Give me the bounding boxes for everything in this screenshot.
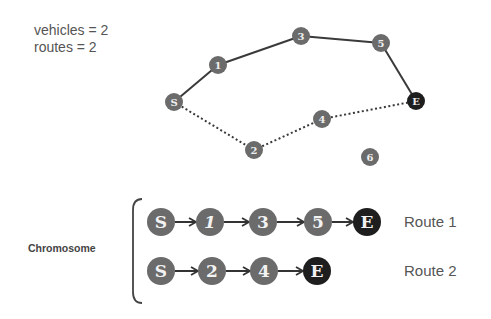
svg-text:3: 3 [257, 212, 269, 232]
gene-E: E [303, 257, 331, 285]
gene-4: 4 [250, 257, 278, 285]
chromosome-label: Chromosome [28, 242, 96, 254]
svg-text:S: S [155, 212, 167, 232]
graph-edges [174, 36, 416, 150]
svg-text:S: S [155, 261, 167, 281]
route-1-edge [301, 36, 381, 43]
svg-text:6: 6 [367, 152, 374, 163]
graph-node-1: 1 [209, 56, 227, 74]
gene-S: S [147, 257, 175, 285]
route-1-edge [381, 43, 416, 101]
svg-text:2: 2 [206, 261, 218, 281]
gene-2: 2 [198, 257, 226, 285]
route-2-edge [322, 101, 416, 119]
graph-node-2: 2 [245, 141, 263, 159]
gene-3: 3 [249, 208, 277, 236]
svg-text:1: 1 [204, 212, 216, 232]
graph-node-4: 4 [313, 110, 331, 128]
svg-text:E: E [361, 212, 374, 232]
graph-nodes: S135E426 [165, 27, 425, 166]
svg-text:5: 5 [312, 212, 324, 232]
graph-node-S: S [165, 93, 183, 111]
route-1-label: Route 1 [404, 213, 457, 230]
gene-E: E [353, 208, 381, 236]
svg-text:3: 3 [298, 31, 305, 42]
svg-text:4: 4 [319, 114, 326, 125]
svg-text:5: 5 [378, 38, 385, 49]
svg-text:1: 1 [215, 60, 222, 71]
route-1-edge [218, 36, 301, 65]
gene-S: S [147, 208, 175, 236]
graph-node-5: 5 [372, 34, 390, 52]
graph-node-6: 6 [361, 148, 379, 166]
svg-text:E: E [412, 96, 420, 107]
svg-text:2: 2 [251, 145, 258, 156]
graph-node-3: 3 [292, 27, 310, 45]
svg-text:S: S [170, 97, 177, 108]
route-2-edge [254, 119, 322, 150]
chromosome-bracket [133, 199, 142, 303]
graph-node-E: E [407, 92, 425, 110]
gene-5: 5 [304, 208, 332, 236]
route-2-label: Route 2 [404, 262, 457, 279]
route-2-edge [174, 102, 254, 150]
svg-text:E: E [311, 261, 324, 281]
chromosome-rows: S135ES24E [147, 208, 381, 285]
svg-text:4: 4 [258, 261, 270, 281]
gene-1: 1 [196, 208, 224, 236]
